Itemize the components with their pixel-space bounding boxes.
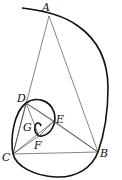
point-labels: ABCDEFG	[2, 1, 108, 164]
logarithmic-spiral	[12, 8, 108, 177]
point-label-d: D	[16, 92, 26, 105]
point-label-c: C	[2, 151, 11, 164]
point-label-g: G	[23, 121, 32, 134]
diagram-canvas: ABCDEFG	[0, 0, 122, 180]
point-label-e: E	[55, 113, 64, 126]
point-label-a: A	[41, 1, 50, 14]
spiral-diagram: ABCDEFG	[0, 0, 122, 180]
point-label-b: B	[99, 147, 108, 160]
segment-BC	[13, 152, 98, 154]
point-label-f: F	[33, 139, 42, 152]
